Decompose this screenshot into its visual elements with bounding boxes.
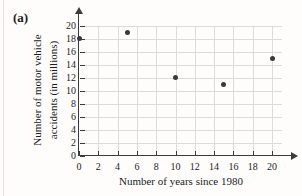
data-point [221,82,226,87]
x-tick [98,151,99,156]
y-axis-line [78,13,79,156]
data-point [270,56,275,61]
y-tick [80,52,85,53]
x-tick-label: 14 [205,161,223,173]
x-tick-label: 2 [89,161,107,173]
x-tick-label: 12 [186,161,204,173]
x-tick [137,151,138,156]
data-point [125,30,130,35]
x-tick [195,151,196,156]
gridline-vertical [195,26,196,157]
y-tick [80,130,85,131]
gridline-horizontal [80,104,282,105]
y-tick [80,26,85,27]
x-tick-label: 18 [244,161,262,173]
y-tick [80,156,85,157]
gridline-vertical [272,26,273,157]
figure-label: (a) [13,10,28,26]
x-tick [253,151,254,156]
gridline-horizontal [80,91,282,92]
y-axis-title: Number of motor vehicle accidents (in mi… [29,25,63,155]
gridline-vertical [137,26,138,157]
y-tick [80,104,85,105]
gridline-horizontal [80,52,282,53]
figure-panel: (a) 0246810121416182002468101214161820 N… [0,0,302,196]
data-point [77,36,82,41]
gridline-horizontal [80,117,282,118]
x-tick [233,151,234,156]
gridline-horizontal [80,26,282,27]
data-point [173,75,178,80]
gridline-vertical [233,26,234,157]
page-edge-line [3,0,4,196]
x-tick-label: 0 [70,161,88,173]
y-tick [80,78,85,79]
x-tick-label: 4 [109,161,127,173]
x-tick-label: 10 [167,161,185,173]
y-axis-title-line1: Number of motor vehicle [29,25,45,155]
gridline-horizontal [80,39,282,40]
x-axis-title: Number of years since 1980 [81,175,281,188]
x-tick-label: 16 [224,161,242,173]
x-tick [118,151,119,156]
gridline-vertical [156,26,157,157]
x-tick [156,151,157,156]
x-tick [176,151,177,156]
x-tick [272,151,273,156]
x-tick-label: 8 [147,161,165,173]
gridline-vertical [253,26,254,157]
x-axis-line [79,155,292,156]
x-tick-label: 6 [128,161,146,173]
gridline-horizontal [80,130,282,131]
gridline-horizontal [80,65,282,66]
y-tick [80,117,85,118]
x-axis-arrow-icon [291,152,298,160]
y-tick [80,65,85,66]
y-axis-title-line2: accidents (in millions) [45,25,61,155]
gridline-vertical [214,26,215,157]
y-axis-arrow-icon [75,7,83,14]
gridline-horizontal [80,78,282,79]
gridline-vertical [118,26,119,157]
x-tick [214,151,215,156]
gridline-vertical [176,26,177,157]
gridline-horizontal [80,143,282,144]
gridline-vertical [98,26,99,157]
y-tick [80,91,85,92]
x-tick-label: 20 [263,161,281,173]
y-tick [80,143,85,144]
